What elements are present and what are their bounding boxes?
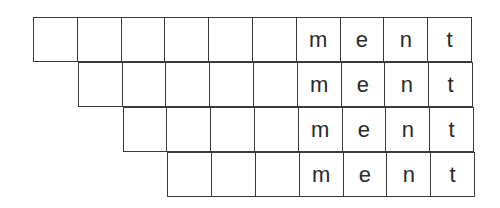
letter-cell: m <box>296 17 341 62</box>
letter-cell: e <box>342 107 387 152</box>
grid-row-2: m e n t <box>78 62 473 107</box>
letter-cell: m <box>299 152 344 197</box>
letter-cell: e <box>340 17 385 62</box>
letter-cell: e <box>341 62 386 107</box>
letter-cell: t <box>428 62 473 107</box>
grid-cell <box>208 17 253 62</box>
grid-cell <box>210 107 255 152</box>
grid-cell <box>209 62 254 107</box>
grid-cell <box>253 62 298 107</box>
grid-row-4: m e n t <box>167 152 475 197</box>
grid-cell <box>254 107 299 152</box>
letter-cell: t <box>429 107 474 152</box>
grid-cell <box>164 17 209 62</box>
grid-cell <box>33 17 78 62</box>
grid-cell <box>77 17 122 62</box>
letter-cell: e <box>343 152 388 197</box>
letter-cell: t <box>427 17 472 62</box>
letter-cell: m <box>298 107 343 152</box>
grid-cell <box>252 17 297 62</box>
grid-cell <box>255 152 300 197</box>
letter-cell: t <box>430 152 475 197</box>
grid-cell <box>122 62 167 107</box>
grid-row-1: m e n t <box>33 17 472 62</box>
grid-cell <box>121 17 166 62</box>
letter-cell: n <box>386 152 431 197</box>
grid-cell <box>78 62 123 107</box>
grid-cell <box>167 152 212 197</box>
grid-cell <box>123 107 168 152</box>
grid-cell <box>211 152 256 197</box>
grid-cell <box>165 62 210 107</box>
grid-cell <box>166 107 211 152</box>
letter-cell: n <box>385 107 430 152</box>
letter-cell: m <box>297 62 342 107</box>
grid-row-3: m e n t <box>123 107 474 152</box>
letter-cell: n <box>384 62 429 107</box>
letter-cell: n <box>383 17 428 62</box>
